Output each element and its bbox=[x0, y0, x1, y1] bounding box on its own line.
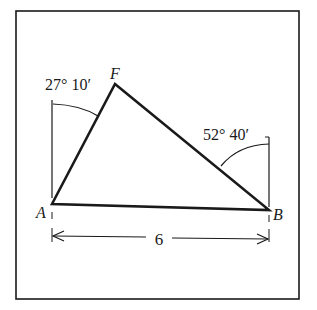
angle-label-a: 27° 10′ bbox=[45, 76, 91, 93]
angle-arc-a bbox=[53, 104, 98, 116]
angle-label-b: 52° 40′ bbox=[203, 126, 249, 143]
base-length-label: 6 bbox=[155, 230, 164, 249]
dim-line-left bbox=[53, 236, 146, 237]
triangle-afb bbox=[52, 84, 269, 210]
angle-arc-b bbox=[221, 144, 269, 166]
figure-frame bbox=[16, 11, 299, 299]
triangle-diagram: 6 A B F 27° 10′ 52° 40′ bbox=[0, 0, 317, 310]
dim-line-right bbox=[172, 238, 268, 239]
vertex-label-a: A bbox=[35, 204, 46, 221]
vertex-label-b: B bbox=[273, 206, 283, 223]
vertex-label-f: F bbox=[109, 65, 120, 82]
